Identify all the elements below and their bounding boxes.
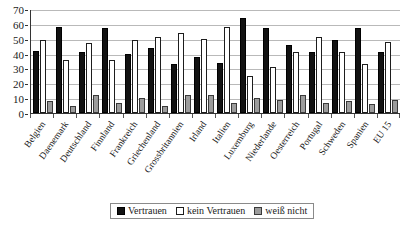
legend-item[interactable]: weiß nicht	[254, 206, 307, 216]
x-label-cell: EU 15	[377, 118, 400, 192]
x-label-cell: Portugal	[308, 118, 331, 192]
y-tick-label: 40	[13, 49, 24, 60]
y-tick-mark	[25, 40, 28, 41]
bar	[247, 76, 253, 113]
x-tick-label-text: Irland	[188, 120, 209, 144]
bar-group	[239, 10, 262, 113]
bar-chart: 010203040506070 BelgienDaenemarkDeutschl…	[0, 0, 406, 232]
bar	[33, 51, 39, 113]
legend-label: kein Vertrauen	[187, 206, 245, 216]
x-label-cell: Spanien	[354, 118, 377, 192]
chart-legend: Vertrauenkein Vertrauenweiß nicht	[110, 203, 314, 219]
y-tick-label: 10	[13, 94, 24, 105]
bar-group	[31, 10, 54, 113]
y-tick-mark	[25, 55, 28, 56]
y-tick-label: 20	[13, 79, 24, 90]
y-tick-label: 60	[13, 19, 24, 30]
y-tick-label: 70	[13, 5, 24, 16]
legend-label: Vertrauen	[128, 206, 167, 216]
legend-item[interactable]: Vertrauen	[117, 206, 167, 216]
bar	[240, 18, 246, 113]
y-tick-label: 50	[13, 34, 24, 45]
x-label-cell: Irland	[192, 118, 215, 192]
y-tick-label: 30	[13, 64, 24, 75]
y-tick-mark	[25, 114, 28, 115]
white-square-swatch	[176, 207, 184, 215]
y-axis: 010203040506070	[0, 10, 28, 114]
bar	[339, 52, 345, 113]
y-tick-mark	[25, 10, 28, 11]
x-label-cell: Schweden	[331, 118, 354, 192]
y-tick-mark	[25, 84, 28, 85]
x-label-cell: Oesterreich	[284, 118, 307, 192]
y-tick-label: 0	[19, 109, 25, 120]
bar	[63, 60, 69, 113]
x-label-cell: Deutschland	[76, 118, 99, 192]
y-tick-mark	[25, 99, 28, 100]
x-label-cell: Grossbritannien	[169, 118, 192, 192]
bar	[224, 27, 230, 113]
bar-group	[216, 10, 239, 113]
x-axis-labels: BelgienDaenemarkDeutschlandFinnlandFrank…	[30, 118, 400, 192]
legend-label: weiß nicht	[265, 206, 307, 216]
legend-item[interactable]: kein Vertrauen	[176, 206, 245, 216]
gray-square-swatch	[254, 207, 262, 215]
black-square-swatch	[117, 207, 125, 215]
bar	[40, 40, 46, 113]
y-tick-mark	[25, 69, 28, 70]
y-tick-mark	[25, 25, 28, 26]
